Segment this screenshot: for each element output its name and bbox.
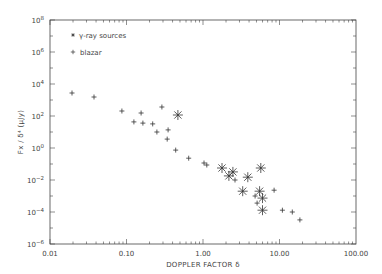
data-points — [70, 91, 303, 223]
blazar-point — [233, 178, 238, 183]
gamma-ray-source-point — [228, 167, 238, 177]
gamma-ray-source-point — [243, 172, 253, 182]
legend: γ-ray sources blazar — [71, 32, 127, 57]
gamma-ray-source-point — [258, 193, 268, 203]
blazar-point — [165, 137, 170, 142]
x-tick-label: 100.00 — [344, 250, 369, 258]
scatter-chart: 0.01 0.10 1.00 10.00 100.00 108106104102… — [0, 0, 382, 274]
blazar-point — [297, 217, 302, 222]
x-axis-tick-labels: 0.01 0.10 1.00 10.00 100.00 — [42, 250, 368, 258]
x-tick-label: 0.10 — [119, 250, 135, 258]
blazar-point — [154, 130, 159, 135]
x-axis-title: DOPPLER FACTOR δ — [166, 261, 240, 269]
x-tick-label: 10.00 — [269, 250, 289, 258]
legend-label-blazar: blazar — [80, 49, 102, 57]
blazar-point — [280, 208, 285, 213]
blazar-point — [173, 148, 178, 153]
plus-marker-icon — [71, 50, 75, 54]
y-tick-label: 108 — [32, 15, 45, 25]
y-tick-label: 10−2 — [27, 175, 44, 185]
gamma-ray-source-point — [238, 186, 248, 196]
y-axis-tick-labels: 10810610410210010−210−410−6 — [27, 15, 45, 249]
blazar-point — [70, 91, 75, 96]
legend-entry-gamma: γ-ray sources — [71, 32, 126, 40]
x-tick-label: 0.01 — [42, 250, 58, 258]
x-tick-label: 1.00 — [195, 250, 211, 258]
legend-label-gamma: γ-ray sources — [79, 32, 126, 40]
blazar-point — [166, 127, 171, 132]
blazar-point — [92, 95, 97, 100]
blazar-point — [159, 105, 164, 110]
gamma-ray-source-point — [217, 163, 227, 173]
blazar-point — [140, 121, 145, 126]
y-tick-label: 106 — [32, 47, 45, 57]
y-tick-label: 10−4 — [27, 207, 45, 217]
asterisk-marker-icon — [71, 33, 75, 37]
y-tick-label: 102 — [32, 111, 44, 121]
y-tick-label: 104 — [32, 79, 45, 89]
gamma-ray-source-point — [173, 110, 183, 120]
blazar-point — [119, 109, 124, 114]
blazar-point — [186, 156, 191, 161]
blazar-point — [272, 188, 277, 193]
y-axis-title: Fx / δ⁴ (μJy) — [17, 110, 25, 154]
gamma-ray-source-point — [256, 163, 266, 173]
y-tick-label: 100 — [32, 143, 45, 153]
blazar-point — [150, 121, 155, 126]
blazar-point — [139, 111, 144, 116]
blazar-point — [290, 210, 295, 215]
gamma-ray-source-point — [258, 205, 268, 215]
legend-entry-blazar: blazar — [71, 49, 102, 57]
y-tick-label: 10−6 — [27, 239, 45, 249]
blazar-point — [131, 119, 136, 124]
